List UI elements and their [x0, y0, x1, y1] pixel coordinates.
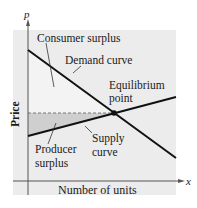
producer-surplus-label-line2: surplus — [35, 157, 68, 169]
x-axis-title: Number of units — [58, 184, 137, 196]
demand-curve-label: Demand curve — [65, 54, 132, 66]
y-axis-title: Price — [9, 101, 21, 127]
x-axis-arrow-icon — [178, 179, 185, 183]
y-axis-variable-label: p — [24, 8, 30, 20]
equilibrium-point-label-line2: point — [109, 92, 133, 104]
x-axis-variable-label: x — [186, 175, 191, 187]
equilibrium-point-marker — [111, 110, 117, 116]
consumer-surplus-label: Consumer surplus — [37, 32, 120, 44]
supply-curve-label-line2: curve — [92, 146, 118, 158]
equilibrium-point-label-line1: Equilibrium — [109, 79, 165, 91]
supply-curve-label-line1: Supply — [92, 132, 125, 144]
y-axis-arrow-icon — [26, 19, 30, 26]
producer-surplus-label-line1: Producer — [35, 143, 77, 155]
